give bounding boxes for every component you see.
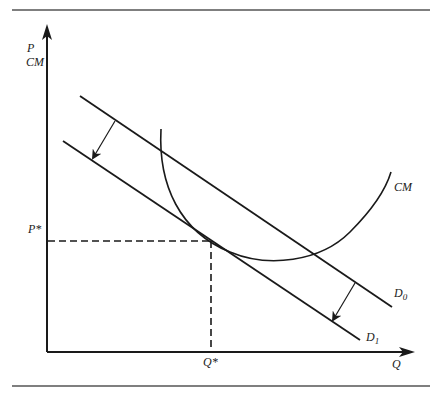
- demand-d0-label: D0: [393, 286, 408, 302]
- quantity-marker-label: Q*: [203, 355, 218, 369]
- shift-arrow-left-icon: [93, 121, 115, 158]
- price-marker-label: P*: [27, 222, 41, 236]
- demand-curve-d0: [80, 96, 392, 307]
- y-axis-label-p: P: [26, 41, 35, 55]
- shift-arrow-right-icon: [333, 283, 355, 320]
- x-axis-label: Q: [392, 357, 401, 371]
- diagram-canvas: P CM Q P* Q* CM D0 D1: [0, 0, 441, 394]
- demand-d1-label: D1: [365, 330, 379, 346]
- cost-curve-label: CM: [394, 180, 413, 194]
- y-axis-label-cm: CM: [26, 55, 45, 69]
